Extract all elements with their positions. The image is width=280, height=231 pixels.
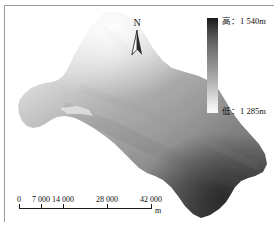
north-arrow-label: N [124, 18, 150, 28]
scale-tick-28000 [107, 204, 108, 209]
north-arrow-icon [124, 29, 150, 61]
map-frame: N 高：1 540m 低：1 285m 0 7 000 14 000 28 00… [4, 5, 274, 222]
legend: 高：1 540m 低：1 285m [204, 16, 278, 126]
scale-bar-line [19, 208, 151, 209]
dem-map-figure: N 高：1 540m 低：1 285m 0 7 000 14 000 28 00… [0, 0, 280, 231]
scale-bar-unit: m [155, 206, 161, 216]
legend-low-label: 低：1 285m [222, 106, 266, 116]
scale-tick-0 [19, 204, 20, 209]
legend-colorbar [207, 18, 218, 113]
legend-high-label: 高：1 540m [222, 16, 266, 26]
scale-tick-14000 [63, 204, 64, 209]
north-arrow: N [124, 18, 150, 60]
scale-tick-7000 [41, 204, 42, 209]
scale-bar: 0 7 000 14 000 28 000 42 000 m [15, 194, 175, 220]
scale-tick-42000 [151, 204, 152, 209]
